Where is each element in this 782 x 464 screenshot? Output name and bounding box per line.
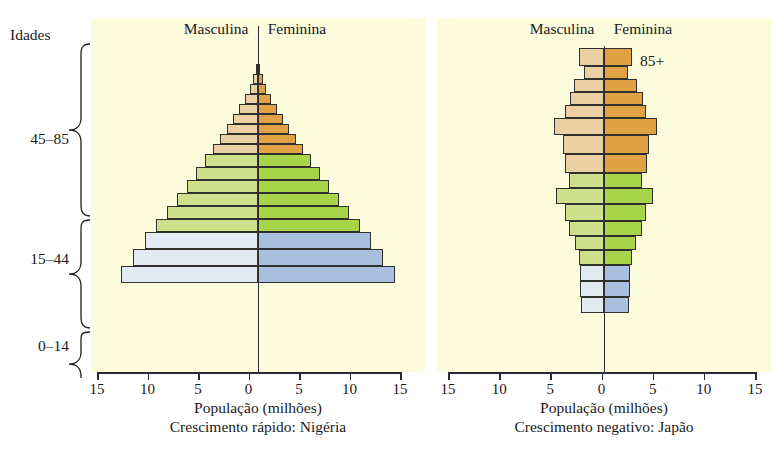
bar-female [604,79,637,92]
bar-male [156,219,258,232]
x-axis-tick [97,372,99,380]
bar-female [604,48,632,66]
x-axis-tick [704,372,706,380]
bar-male [565,204,604,221]
pyramid-row [437,118,771,135]
annotation-85-plus: 85+ [640,52,664,70]
bar-female [604,154,647,173]
bar-female [258,144,303,154]
bar-female [604,281,630,297]
x-axis-tick [400,372,402,380]
pyramid-row [91,94,425,104]
age-label-15-44: 15–44 [14,250,69,268]
x-axis-tick-label: 5 [295,381,303,398]
bar-female [258,94,271,104]
pyramid-row [437,236,771,250]
x-axis-tick [350,372,352,380]
pyramid-row [91,193,425,206]
bar-female [258,124,289,134]
header-male-japao: Masculina [530,20,604,38]
bar-male [580,281,604,297]
pyramid-row [91,64,425,74]
population-pyramid-japao: Masculina Feminina [437,18,771,372]
pyramid-row [91,167,425,180]
age-label-0-14: 0–14 [14,337,69,355]
xlabel-nigeria: População (milhões) [91,398,425,417]
bar-female [258,193,339,206]
bar-male [250,84,258,94]
bar-female [604,188,653,204]
pyramid-row [437,92,771,105]
pyramid-row [437,204,771,221]
bar-stack-japao [437,48,771,313]
x-axis-tick-label: 10 [342,381,357,398]
pyramid-row [91,144,425,154]
x-axis-tick [448,372,450,380]
bar-female [258,249,383,266]
pyramid-row [437,265,771,281]
bar-male [574,79,604,92]
bar-female [258,134,296,144]
bar-male [205,154,258,167]
bar-female [258,219,360,232]
bar-female [604,297,629,313]
bar-male [575,236,604,250]
population-pyramid-nigeria: Masculina Feminina [91,18,425,372]
subtitle-nigeria: Crescimento rápido: Nigéria [91,417,425,436]
x-axis-tick [198,372,200,380]
bar-stack-nigeria [91,64,425,283]
bar-male [167,206,258,219]
x-axis-tick-label: 15 [441,381,456,398]
x-axis-tick-label: 15 [748,381,763,398]
bar-male [133,249,258,266]
bar-female [604,118,657,135]
bar-male [145,232,258,249]
bar-female [258,74,263,84]
bar-male [121,266,258,283]
caption-japao: População (milhões) Crescimento negativo… [437,398,771,436]
bar-male [579,48,604,66]
x-axis-tick [653,372,655,380]
bar-female [604,221,642,236]
bar-female [258,206,349,219]
bar-male [187,180,258,193]
x-axis-nigeria: 15105051015 [91,372,425,398]
bar-female [604,105,646,118]
xlabel-japao: População (milhões) [437,398,771,417]
x-axis-tick [299,372,301,380]
x-axis-tick-label: 0 [598,381,606,398]
bar-male [579,250,604,265]
x-axis-tick [249,372,251,380]
bar-male [213,144,258,154]
bar-male [554,118,605,135]
bar-female [258,180,329,193]
bar-female [604,92,643,105]
bar-male [584,66,604,79]
pyramid-row [437,297,771,313]
bar-female [258,232,371,249]
x-axis-tick-label: 15 [90,381,105,398]
bar-female [604,204,646,221]
x-axis-tick [499,372,501,380]
header-female-japao: Feminina [605,20,673,38]
pyramid-row [91,219,425,232]
pyramid-row [437,79,771,92]
bar-female [604,173,642,188]
pyramid-row [91,134,425,144]
bar-male [556,188,604,204]
ages-axis-title: Idades [10,26,50,44]
x-axis-tick-label: 5 [547,381,555,398]
bar-male [581,297,604,313]
x-axis-tick [550,372,552,380]
pyramid-row [437,173,771,188]
pyramid-row [91,104,425,114]
bar-male [565,105,604,118]
header-female-nigeria: Feminina [259,20,327,38]
x-axis-tick-label: 10 [696,381,711,398]
bar-female [604,236,636,250]
x-axis-tick-label: 15 [393,381,408,398]
bar-male [563,135,604,154]
bar-female [604,135,649,154]
pyramid-row [437,281,771,297]
pyramid-row [91,206,425,219]
